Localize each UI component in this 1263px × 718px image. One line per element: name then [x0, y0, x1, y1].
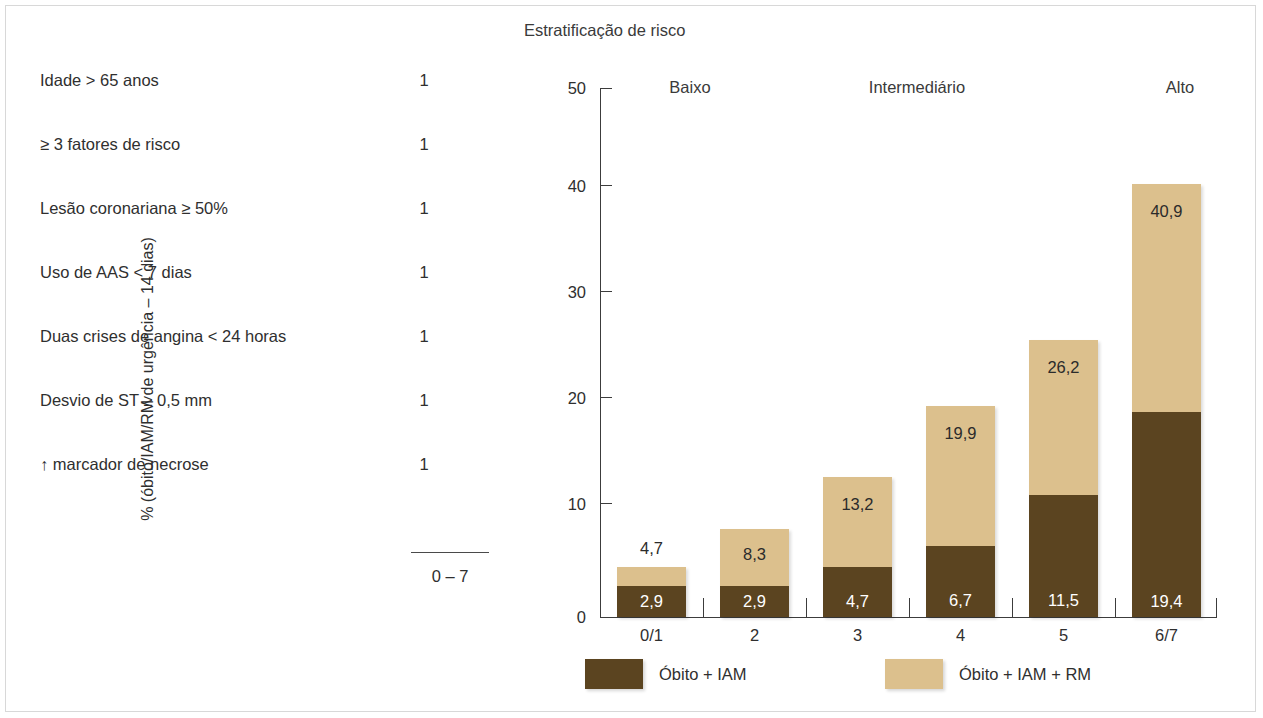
legend-label: Óbito + IAM + RM [959, 665, 1091, 684]
legend-item-obito-iam-rm[interactable]: Óbito + IAM + RM [885, 659, 1091, 689]
bar-segment-label: 11,5 [1029, 591, 1098, 610]
y-tick-mark [600, 291, 612, 292]
bar-segment-label: 19,4 [1132, 592, 1201, 611]
x-tick-label: 6/7 [1132, 626, 1201, 645]
y-tick-mark [600, 88, 612, 89]
y-tick-label: 10 [540, 496, 586, 512]
bar-total-label: 26,2 [1029, 358, 1098, 377]
y-axis-label: % (óbito/IAM/RM de urgência – 14 dias) [139, 219, 157, 539]
bar-segment-death-mi[interactable]: 4,7 [823, 567, 892, 617]
bar-segment-label: 2,9 [617, 592, 686, 611]
bar-total-label: 40,9 [1132, 202, 1201, 221]
x-tick-label: 3 [823, 626, 892, 645]
group-label-intermediario: Intermediário [827, 78, 1007, 97]
legend-swatch-icon [585, 659, 643, 689]
group-label-baixo: Baixo [620, 78, 760, 97]
x-tick-mark [1115, 598, 1116, 617]
bar-segment-death-mi[interactable]: 6,7 [926, 546, 995, 617]
y-axis-line [600, 88, 601, 618]
legend-item-obito-iam[interactable]: Óbito + IAM [585, 659, 747, 689]
bar-stack[interactable]: 13,2 4,7 [823, 477, 892, 617]
bar-total-label: 8,3 [720, 545, 789, 564]
x-tick-label: 2 [720, 626, 789, 645]
bar-stack[interactable]: 40,9 19,4 [1132, 184, 1201, 617]
x-tick-mark [703, 598, 704, 617]
y-tick-label: 0 [540, 609, 586, 625]
x-axis-line [600, 617, 1217, 618]
x-tick-label: 0/1 [617, 626, 686, 645]
legend-swatch-icon [885, 659, 943, 689]
bar-segment-label: 2,9 [720, 592, 789, 611]
y-tick-mark [600, 397, 612, 398]
y-tick-label: 50 [540, 80, 586, 96]
stacked-bar-chart: % (óbito/IAM/RM de urgência – 14 dias) 5… [0, 0, 1263, 718]
figure-page: Idade > 65 anos 1 ≥ 3 fatores de risco 1… [0, 0, 1263, 718]
bar-segment-death-mi[interactable]: 2,9 [720, 586, 789, 617]
x-tick-mark [909, 598, 910, 617]
bar-segment-label: 4,7 [823, 592, 892, 611]
y-tick-label: 40 [540, 178, 586, 194]
bar-segment-label: 6,7 [926, 591, 995, 610]
bar-total-label: 4,7 [617, 539, 686, 558]
bar-stack[interactable]: 26,2 11,5 [1029, 340, 1098, 617]
bar-stack[interactable]: 8,3 2,9 [720, 529, 789, 617]
x-tick-mark [1216, 598, 1217, 617]
y-tick-mark [600, 503, 612, 504]
y-tick-label: 30 [540, 284, 586, 300]
legend-label: Óbito + IAM [659, 665, 747, 684]
y-tick-label: 20 [540, 390, 586, 406]
x-tick-mark [1012, 598, 1013, 617]
bar-stack[interactable]: 19,9 6,7 [926, 406, 995, 617]
bar-segment-death-mi[interactable]: 11,5 [1029, 495, 1098, 617]
y-tick-mark [600, 185, 612, 186]
x-tick-mark [806, 598, 807, 617]
x-tick-label: 4 [926, 626, 995, 645]
x-tick-label: 5 [1029, 626, 1098, 645]
bar-segment-death-mi[interactable]: 19,4 [1132, 412, 1201, 617]
bar-segment-death-mi[interactable]: 2,9 [617, 586, 686, 617]
group-label-alto: Alto [1120, 78, 1240, 97]
bar-total-label: 13,2 [823, 495, 892, 514]
bar-total-label: 19,9 [926, 424, 995, 443]
bar-stack[interactable]: 4,7 2,9 [617, 567, 686, 617]
